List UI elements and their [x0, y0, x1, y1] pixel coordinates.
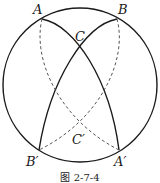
arc-B-prime-to-A-prime-front — [36, 19, 42, 150]
figure-caption: 图 2-7-4 — [60, 172, 99, 183]
spherical-triangle-diagram: A B C C′ B′ A′ 图 2-7-4 — [0, 0, 160, 183]
point-label-C: C — [75, 29, 85, 44]
point-label-B: B — [117, 2, 128, 17]
point-label-A-prime: A′ — [113, 154, 126, 169]
point-label-B-prime: B′ — [25, 154, 39, 169]
point-label-C-prime: C′ — [72, 132, 85, 147]
point-label-A: A — [32, 2, 42, 17]
arc-left-solid — [39, 88, 56, 150]
arc-A-to-B-prime — [35, 88, 40, 150]
